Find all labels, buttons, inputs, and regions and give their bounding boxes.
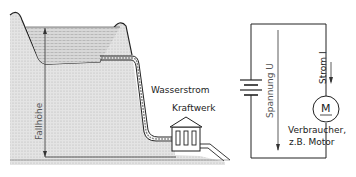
voltage-arrow xyxy=(276,30,280,151)
current-label: Strom I xyxy=(319,51,328,84)
flow-label: Wasserstrom xyxy=(151,86,209,95)
consumer-label-line2: z.B. Motor xyxy=(289,138,335,147)
plant-label: Kraftwerk xyxy=(172,104,215,113)
fall-height-label: Fallhöhe xyxy=(35,103,44,140)
motor-symbol: M xyxy=(321,103,331,114)
voltage-label: Spannung U xyxy=(266,63,275,118)
current-arrow xyxy=(329,62,333,84)
consumer-label-line1: Verbraucher, xyxy=(288,126,346,135)
battery-icon xyxy=(240,75,262,101)
power-plant-icon xyxy=(170,117,202,151)
